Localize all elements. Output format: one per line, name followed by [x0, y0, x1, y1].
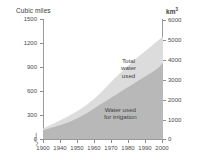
x-tick-mark [60, 140, 61, 143]
series-label-total-line1: Total [122, 57, 135, 64]
right-axis-title: km3 [166, 7, 178, 15]
series-label-total-line3: used [122, 72, 135, 79]
x-tick-label-2000: 2000 [150, 145, 174, 151]
series-label-irrigation-line1: Water used [105, 106, 136, 113]
right-tick-mark [163, 40, 166, 41]
left-tick-label-900: 900 [11, 64, 37, 70]
right-tick-mark [163, 100, 166, 101]
series-label-total-line2: water [121, 64, 136, 71]
right-tick-mark [163, 80, 166, 81]
x-tick-mark [77, 140, 78, 143]
left-tick-label-1200: 1200 [11, 40, 37, 46]
left-tick-label-300: 300 [11, 112, 37, 118]
right-tick-label-3000: 3000 [168, 77, 196, 83]
water-use-area-chart: Cubic miles km3 1500 1200 900 600 300 0 … [0, 0, 205, 168]
x-tick-mark [111, 140, 112, 143]
right-tick-label-2000: 2000 [168, 97, 196, 103]
x-tick-mark [145, 140, 146, 143]
right-axis-title-unit: km [166, 8, 176, 15]
x-tick-mark [128, 140, 129, 143]
right-tick-label-1000: 1000 [168, 117, 196, 123]
left-axis-title: Cubic miles [16, 7, 51, 14]
axis-break-icon [30, 133, 44, 146]
right-tick-mark [163, 20, 166, 21]
right-tick-mark [163, 139, 166, 140]
series-label-water-used-for-irrigation: Water used for irrigation [104, 106, 137, 121]
right-tick-mark [163, 60, 166, 61]
left-tick-label-600: 600 [11, 88, 37, 94]
area-series-svg [43, 19, 163, 139]
right-axis-title-exponent: 3 [176, 7, 179, 12]
series-label-irrigation-line2: for irrigation [104, 113, 137, 120]
x-tick-mark [94, 140, 95, 143]
right-tick-label-0: 0 [168, 136, 196, 142]
right-tick-label-5000: 5000 [168, 37, 196, 43]
left-tick-label-1500: 1500 [11, 16, 37, 22]
x-tick-mark [162, 140, 163, 143]
plot-area [43, 19, 163, 139]
right-tick-mark [163, 120, 166, 121]
right-tick-label-6000: 6000 [168, 17, 196, 23]
right-tick-label-4000: 4000 [168, 57, 196, 63]
series-label-total-water-used: Total water used [121, 57, 136, 79]
